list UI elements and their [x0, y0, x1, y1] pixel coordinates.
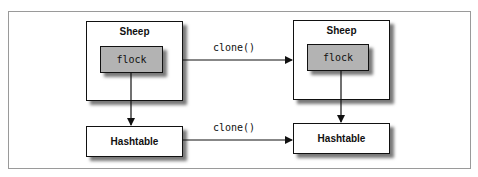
sheep-clone-label: clone() — [213, 42, 255, 53]
connector-arrows — [0, 0, 478, 177]
hashtable-clone-label: clone() — [213, 122, 255, 133]
